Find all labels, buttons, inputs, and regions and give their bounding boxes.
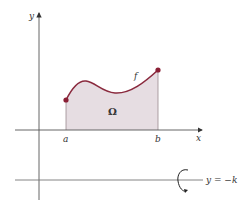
rotation-arrow-icon	[178, 170, 188, 193]
diagram-canvas: y x a b f Ω y = −k	[0, 0, 248, 205]
region-omega	[66, 70, 158, 130]
x-axis-label: x	[196, 133, 201, 143]
region-label: Ω	[108, 106, 117, 117]
endpoint-a	[63, 97, 68, 102]
endpoint-b	[155, 67, 160, 72]
a-label: a	[63, 134, 68, 144]
rotation-line-label: y = −k	[205, 175, 237, 185]
function-label: f	[133, 71, 139, 81]
b-label: b	[155, 134, 161, 144]
y-axis-label: y	[28, 11, 35, 21]
